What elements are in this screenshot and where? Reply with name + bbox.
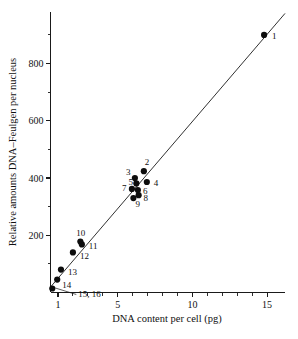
data-point [58,267,64,273]
data-point [54,277,60,283]
fit-line-segment [51,13,285,286]
data-point [79,241,85,247]
scatter-plot: 200400600800 151015 12345678910111213141… [0,0,298,339]
y-tick-label: 800 [29,58,44,69]
y-tick-label: 200 [29,230,44,241]
data-point-label: 13 [68,267,78,277]
y-axis-tick-labels: 200400600800 [29,58,44,241]
data-point [70,249,76,255]
data-point-label: 10 [76,228,86,238]
data-point-label: 15, 16 [78,289,101,299]
data-point-label: 4 [154,178,159,188]
y-axis-title: Relative amounts DNA–Feulgen per nucleus [7,58,18,246]
data-point-label: 3 [126,167,131,177]
x-tick-label: 15 [262,299,272,310]
data-point [141,168,147,174]
data-point-label: 11 [89,241,98,251]
x-tick-label: 10 [187,299,197,310]
x-tick-label: 5 [115,299,120,310]
figure-container: 200400600800 151015 12345678910111213141… [0,0,298,339]
y-axis-ticks [46,35,51,264]
y-tick-label: 600 [29,115,44,126]
data-point-label: 14 [62,280,72,290]
regression-line [51,13,285,286]
cropped-caption-sliver [0,331,298,339]
data-point [261,32,267,38]
x-tick-label: 1 [55,299,60,310]
y-tick-label: 400 [29,173,44,184]
data-point [144,179,150,185]
data-point-label: 12 [80,251,89,261]
data-point-label: 9 [135,199,140,209]
data-point [133,180,139,186]
data-point-label: 8 [144,193,149,203]
data-point [49,285,55,291]
data-point-label: 7 [122,183,127,193]
data-point [136,192,142,198]
data-point-label: 5 [128,177,133,187]
data-point-labels: 123456789101112131415, 16 [62,31,276,300]
data-point-label: 1 [272,31,277,41]
data-point-label: 2 [145,157,150,167]
x-axis-tick-labels: 151015 [55,299,272,310]
x-axis-title: DNA content per cell (pg) [112,313,222,325]
